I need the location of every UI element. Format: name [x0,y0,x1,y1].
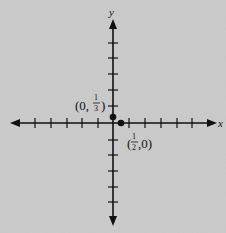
svg-text:1: 1 [132,132,136,141]
svg-text:2: 2 [132,143,136,152]
svg-text:): ) [101,98,105,113]
svg-text:(: ( [127,136,131,151]
svg-text:,0): ,0) [138,136,152,151]
coordinate-plane: y x (0, 1 3 ) ( 1 2 ,0) [0,0,226,233]
x-axis-label: x [217,117,223,129]
point-x-intercept [118,120,125,127]
svg-text:3: 3 [94,104,98,113]
svg-text:(0,: (0, [75,98,89,113]
point-y-intercept [110,114,117,121]
svg-text:1: 1 [94,93,98,102]
y-axis-label: y [108,6,114,18]
